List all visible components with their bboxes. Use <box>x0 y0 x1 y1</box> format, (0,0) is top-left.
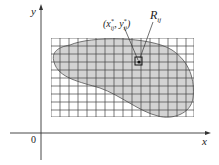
sample-point <box>137 60 140 63</box>
origin-label: 0 <box>31 134 36 145</box>
double-integral-diagram: y x 0 (x*ij, y*ij) Rij <box>0 0 219 165</box>
x-axis-label: x <box>201 135 207 147</box>
y-axis-label: y <box>30 5 36 17</box>
rect-label: Rij <box>149 8 161 24</box>
y-axis-arrow-icon <box>39 4 43 10</box>
point-label: (x*ij, y*ij) <box>103 18 131 31</box>
